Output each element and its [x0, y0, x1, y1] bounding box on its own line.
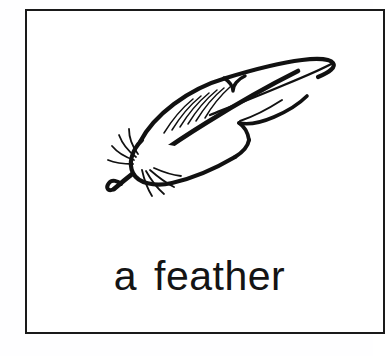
caption-article: a [114, 253, 137, 299]
card-border-frame: afeather [25, 9, 385, 334]
feather-icon [102, 41, 352, 201]
feather-illustration [102, 41, 352, 201]
caption-word: feather [154, 253, 285, 299]
caption: afeather [27, 256, 372, 297]
